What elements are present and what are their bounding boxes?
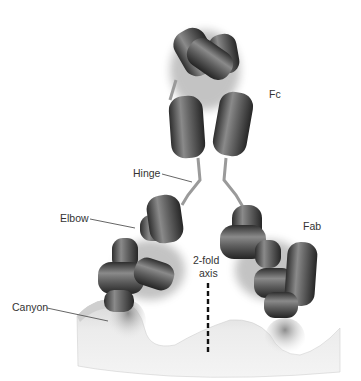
elbow-label: Elbow — [60, 212, 89, 224]
fc-label: Fc — [269, 88, 281, 100]
two-fold-axis-label-line2: axis — [199, 267, 218, 279]
antibody-diagram: Fc Hinge Elbow Fab 2-fold axis Canyon — [0, 0, 361, 381]
diagram-canvas — [0, 0, 361, 381]
hinge-label: Hinge — [133, 167, 160, 179]
canyon-label: Canyon — [12, 301, 48, 313]
two-fold-axis-label-line1: 2-fold — [193, 254, 219, 266]
fab-label: Fab — [303, 220, 321, 232]
